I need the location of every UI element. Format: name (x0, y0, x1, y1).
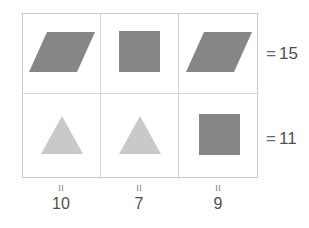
equals-sign: = (133, 184, 145, 192)
shape-equation-puzzle: = 15 = 11 = 10 = 7 = 9 (0, 0, 309, 228)
row-sum-2: = 11 (266, 130, 297, 147)
column-sum-3: = 9 (178, 182, 258, 213)
column-sum-2: = 7 (100, 182, 178, 213)
grid-cell-r1c1 (23, 14, 101, 94)
parallelogram-icon (186, 32, 252, 76)
column-sum-value: 9 (214, 195, 223, 213)
equals-sign: = (266, 130, 276, 147)
row-sum-value: 15 (279, 45, 298, 62)
column-sum-value: 7 (135, 195, 144, 213)
triangle-icon (41, 116, 83, 158)
row-sum-value: 11 (279, 130, 297, 147)
shape-grid (22, 13, 258, 178)
square-icon (119, 31, 160, 76)
column-sum-value: 10 (52, 195, 70, 213)
grid-cell-r1c2 (101, 14, 179, 94)
parallelogram-icon (29, 32, 95, 76)
square-icon (199, 114, 240, 159)
equals-sign: = (266, 45, 276, 62)
row-sum-1: = 15 (266, 45, 298, 62)
triangle-icon (119, 116, 161, 158)
column-sum-1: = 10 (22, 182, 100, 213)
grid-cell-r2c3 (179, 94, 259, 179)
grid-cell-r2c1 (23, 94, 101, 179)
grid-cell-r2c2 (101, 94, 179, 179)
column-sums: = 10 = 7 = 9 (22, 182, 258, 213)
equals-sign: = (55, 184, 67, 192)
equals-sign: = (212, 184, 224, 192)
grid-cell-r1c3 (179, 14, 259, 94)
